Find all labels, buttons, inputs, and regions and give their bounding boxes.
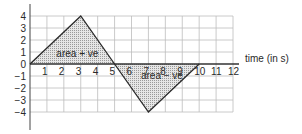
x-tick-label: 1 (42, 66, 48, 77)
x-tick-label: 12 (228, 66, 240, 77)
x-tick-label: 3 (76, 66, 82, 77)
x-tick-label: 5 (110, 66, 116, 77)
y-tick-label: −4 (15, 107, 27, 118)
x-tick-label: 11 (211, 66, 222, 77)
y-tick-label: 1 (20, 47, 26, 58)
x-tick-label: 2 (59, 66, 65, 77)
x-tick-label: 4 (93, 66, 99, 77)
y-tick-label: 4 (20, 11, 26, 22)
x-tick-label: 10 (194, 66, 206, 77)
y-tick-label: −1 (15, 71, 27, 82)
y-tick-label: −3 (15, 95, 27, 106)
x-axis-label: time (in s) (245, 53, 289, 64)
y-tick-label: 2 (20, 35, 26, 46)
x-tick-label: 6 (127, 66, 133, 77)
y-tick-label: 0 (20, 59, 26, 70)
velocity-time-chart: 123456789101112 43210−1−2−3−4 area + vea… (0, 0, 302, 134)
area-annotation: area − ve (141, 70, 183, 81)
y-tick-label: −2 (15, 83, 27, 94)
y-tick-labels: 43210−1−2−3−4 (15, 11, 27, 118)
area-annotation: area + ve (56, 48, 98, 59)
y-tick-label: 3 (20, 23, 26, 34)
